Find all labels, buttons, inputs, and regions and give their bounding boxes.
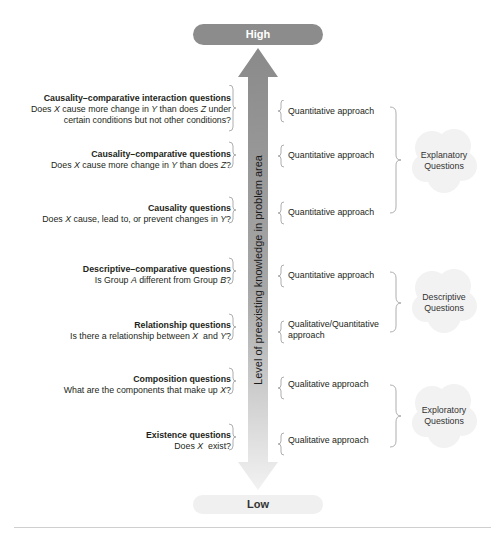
question-text: What are the components that make up X? <box>64 385 231 396</box>
question-text: Does X exist? <box>146 441 231 452</box>
question-text: Is there a relationship between X and Y? <box>70 331 231 342</box>
approach-label: Quantitative approach <box>288 106 374 117</box>
question-text: certain conditions but not other conditi… <box>31 115 231 126</box>
group-label-line1: Exploratory <box>410 405 478 416</box>
question-causality-comparative-interaction: Causality–comparative interaction questi… <box>31 93 231 126</box>
question-causality-comparative: Causality–comparative questions Does X c… <box>51 149 231 171</box>
approach-label-multiline: Qualitative/Quantitative approach <box>288 319 379 341</box>
question-title: Existence questions <box>146 430 231 441</box>
question-text: Is Group A different from Group B? <box>83 275 231 286</box>
group-label-line2: Questions <box>410 161 478 172</box>
question-title: Descriptive–comparative questions <box>83 264 231 275</box>
axis-label: Level of preexisting knowledge in proble… <box>252 155 264 385</box>
approach-label: Qualitative approach <box>288 379 369 390</box>
group-exploratory: Exploratory Questions <box>410 405 478 427</box>
question-title: Causality–comparative interaction questi… <box>31 93 231 104</box>
question-title: Causality questions <box>42 203 231 214</box>
approach-label: Quantitative approach <box>288 207 374 218</box>
question-composition: Composition questions What are the compo… <box>64 374 231 396</box>
group-label-line1: Explanatory <box>410 150 478 161</box>
question-text: Does X cause, lead to, or prevent change… <box>42 214 231 225</box>
group-braces <box>388 105 408 450</box>
approach-label: Quantitative approach <box>288 270 374 281</box>
question-text: Does X cause more change in Y than does … <box>31 104 231 115</box>
group-descriptive: Descriptive Questions <box>410 292 478 314</box>
low-label: Low <box>193 495 323 514</box>
group-label-line1: Descriptive <box>410 292 478 303</box>
approach-label-line1: Qualitative/Quantitative <box>288 319 379 330</box>
group-label-line2: Questions <box>410 416 478 427</box>
approach-label-line2: approach <box>288 330 379 341</box>
question-title: Causality–comparative questions <box>51 149 231 160</box>
divider <box>14 527 491 528</box>
approach-label: Quantitative approach <box>288 150 374 161</box>
question-braces <box>228 85 240 485</box>
question-existence: Existence questions Does X exist? <box>146 430 231 452</box>
question-descriptive-comparative: Descriptive–comparative questions Is Gro… <box>83 264 231 286</box>
question-title: Composition questions <box>64 374 231 385</box>
approach-label: Qualitative approach <box>288 435 369 446</box>
group-explanatory: Explanatory Questions <box>410 150 478 172</box>
question-text: Does X cause more change in Y than does … <box>51 160 231 171</box>
question-relationship: Relationship questions Is there a relati… <box>70 320 231 342</box>
question-causality: Causality questions Does X cause, lead t… <box>42 203 231 225</box>
group-label-line2: Questions <box>410 303 478 314</box>
approach-braces <box>276 100 286 460</box>
question-title: Relationship questions <box>70 320 231 331</box>
